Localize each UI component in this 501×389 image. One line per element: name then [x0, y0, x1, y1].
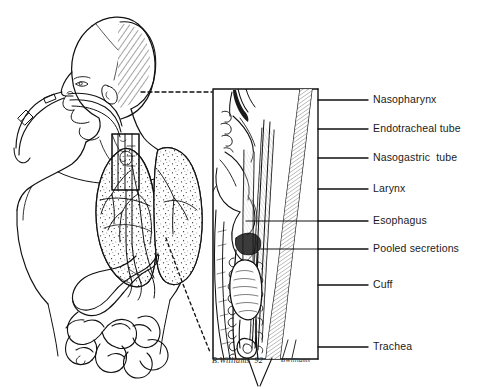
callout-label-pooled-secretions: Pooled secretions [373, 243, 459, 254]
callout-label-nasopharynx: Nasopharynx [373, 94, 437, 105]
artist-signature: B.Williams 92 [212, 356, 263, 365]
illustration-artwork [0, 0, 501, 389]
medical-illustration-figure: Nasopharynx Endotracheal tube Nasogastri… [0, 0, 501, 389]
sagittal-inset [211, 89, 318, 386]
head-outline [61, 17, 160, 142]
artist-mark: BWilliams [281, 356, 310, 363]
callout-label-larynx: Larynx [373, 183, 405, 194]
callout-label-nasogastric-tube: Nasogastric tube [373, 152, 457, 163]
callout-label-cuff: Cuff [373, 279, 393, 290]
callout-label-endotracheal-tube: Endotracheal tube [373, 123, 461, 134]
callout-label-esophagus: Esophagus [373, 215, 427, 226]
callout-label-trachea: Trachea [373, 341, 412, 352]
callout-leader-lines [318, 89, 368, 359]
